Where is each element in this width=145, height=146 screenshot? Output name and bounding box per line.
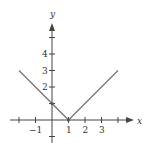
y-tick-label: 4 <box>42 49 48 59</box>
x-axis-label: x <box>137 116 142 126</box>
x-tick-label: −1 <box>29 125 42 135</box>
x-tick-label: 2 <box>83 125 89 135</box>
function-line <box>19 71 118 121</box>
x-axis-arrow-icon <box>126 117 134 123</box>
x-tick-label: 1 <box>66 125 72 135</box>
y-axis-label: y <box>49 9 56 19</box>
vertex-point <box>67 118 70 121</box>
y-axis-arrow-icon <box>49 23 55 31</box>
y-intercept-point <box>50 102 53 105</box>
chart-plot: y x −1 1 2 3 2 3 4 <box>0 0 145 146</box>
y-tick-label: 2 <box>42 82 48 92</box>
x-tick-label: 3 <box>99 125 105 135</box>
y-tick-label: 3 <box>42 66 48 76</box>
